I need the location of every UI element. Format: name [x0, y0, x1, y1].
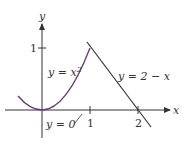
parabola-label: y = x2: [47, 65, 82, 79]
y-axis-label: y: [38, 10, 46, 23]
y0-pointer: [75, 114, 82, 123]
parabola-curve: [18, 48, 90, 110]
line-curve: [87, 42, 151, 127]
region-diagram: y x 1 1 2 y = x2 y = 2 − x y = 0: [0, 0, 182, 146]
y-tick-label-1: 1: [30, 42, 37, 55]
x-tick-label-1: 1: [87, 117, 94, 130]
axis-label-y0: y = 0: [45, 118, 75, 131]
x-tick-label-2: 2: [135, 117, 142, 130]
line-label: y = 2 − x: [117, 70, 171, 83]
x-axis-label: x: [173, 104, 180, 117]
